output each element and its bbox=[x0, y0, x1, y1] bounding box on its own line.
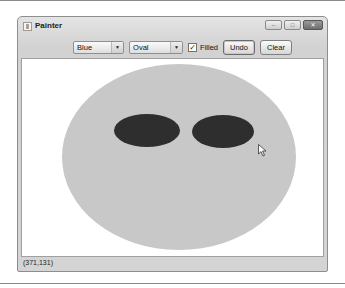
filled-label: Filled bbox=[200, 43, 218, 52]
mouse-pointer-icon bbox=[258, 144, 267, 157]
painter-window: Painter – □ ✕ Blue ▼ Oval ▼ ✓ Filled Und… bbox=[17, 16, 328, 272]
oval-left-eye bbox=[114, 114, 180, 147]
window-controls: – □ ✕ bbox=[265, 20, 323, 30]
undo-button[interactable]: Undo bbox=[223, 40, 255, 55]
mouse-coordinates: (371,131) bbox=[23, 259, 53, 266]
filled-checkbox-group[interactable]: ✓ Filled bbox=[188, 43, 218, 52]
oval-face bbox=[62, 64, 296, 250]
color-select-value: Blue bbox=[77, 43, 92, 52]
shape-select[interactable]: Oval ▼ bbox=[129, 41, 183, 54]
clear-button[interactable]: Clear bbox=[260, 40, 292, 55]
top-rule bbox=[0, 0, 345, 1]
oval-right-eye bbox=[192, 115, 254, 148]
filled-checkbox[interactable]: ✓ bbox=[188, 43, 197, 52]
chevron-down-icon[interactable]: ▼ bbox=[111, 42, 123, 53]
status-bar: (371,131) bbox=[21, 257, 324, 269]
drawing-canvas[interactable] bbox=[21, 58, 324, 257]
toolbar: Blue ▼ Oval ▼ ✓ Filled Undo Clear bbox=[18, 37, 327, 57]
chevron-down-icon[interactable]: ▼ bbox=[170, 42, 182, 53]
bottom-rule bbox=[0, 283, 345, 284]
window-title: Painter bbox=[35, 21, 62, 30]
app-icon bbox=[23, 22, 32, 31]
title-bar[interactable]: Painter – □ ✕ bbox=[18, 17, 327, 35]
shape-select-value: Oval bbox=[133, 43, 148, 52]
color-select[interactable]: Blue ▼ bbox=[73, 41, 124, 54]
maximize-button[interactable]: □ bbox=[284, 20, 301, 30]
minimize-button[interactable]: – bbox=[265, 20, 282, 30]
close-button[interactable]: ✕ bbox=[303, 20, 323, 30]
